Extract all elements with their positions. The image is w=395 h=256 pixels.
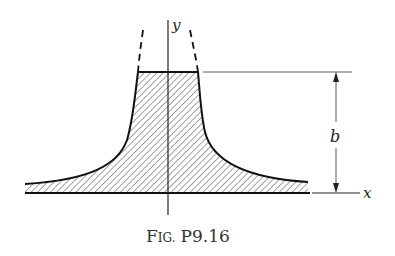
hatched-section — [25, 72, 308, 193]
figure: y x b FIG.P9.16 — [0, 0, 395, 256]
caption-number: P9.16 — [181, 226, 230, 246]
figure-caption: FIG.P9.16 — [146, 226, 230, 246]
dimension-label: b — [330, 127, 340, 146]
x-axis-label: x — [363, 184, 372, 202]
caption-smallcaps: IG. — [158, 231, 176, 245]
caption-prefix: F — [146, 226, 158, 246]
dashed-curve-right — [190, 30, 198, 72]
y-axis-label: y — [171, 16, 181, 34]
dashed-curve-left — [138, 30, 143, 72]
arrow-up-icon — [333, 72, 339, 82]
diagram-canvas: y x b FIG.P9.16 — [0, 0, 395, 256]
arrow-down-icon — [333, 183, 339, 193]
